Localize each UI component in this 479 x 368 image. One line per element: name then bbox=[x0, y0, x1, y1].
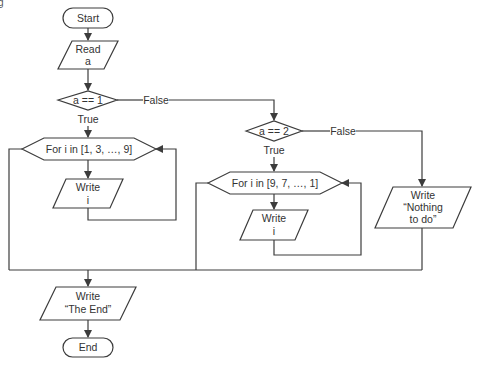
decision-a-eq-1: a == 1 bbox=[58, 91, 117, 110]
loop-1-label: For i in [1, 3, …, 9] bbox=[46, 143, 132, 155]
write-i-2-line1: Write bbox=[262, 212, 286, 224]
write-i-2-line2: i bbox=[273, 225, 275, 237]
write-i-1-node: Write i bbox=[53, 179, 123, 208]
write-nothing-line2: “Nothing bbox=[403, 201, 443, 213]
write-i-1-line2: i bbox=[87, 194, 89, 206]
write-end-line1: Write bbox=[76, 290, 100, 302]
write-i-1-line1: Write bbox=[76, 181, 100, 193]
loop-1-node: For i in [1, 3, …, 9] bbox=[22, 138, 156, 160]
end-node: End bbox=[63, 338, 113, 357]
write-nothing-node: Write “Nothing to do” bbox=[375, 187, 471, 228]
write-the-end-node: Write “The End” bbox=[40, 287, 136, 320]
read-a-node: Read a bbox=[58, 41, 118, 69]
flowchart: g True Fal bbox=[0, 0, 479, 368]
decision-a-eq-2: a == 2 bbox=[246, 121, 302, 141]
edge-loop2-exit bbox=[196, 183, 208, 270]
start-label: Start bbox=[77, 12, 99, 24]
read-a-line1: Read bbox=[75, 43, 100, 55]
write-nothing-line3: to do” bbox=[410, 213, 437, 225]
cond1-false-label: False bbox=[143, 94, 169, 106]
cropped-text-fragment: g bbox=[0, 0, 4, 8]
decision-2-label: a == 2 bbox=[259, 125, 289, 137]
start-node: Start bbox=[63, 8, 113, 28]
loop-2-label: For i in [9, 7, …, 1] bbox=[232, 177, 318, 189]
end-label: End bbox=[79, 341, 98, 353]
cond2-true-label: True bbox=[263, 144, 284, 156]
write-nothing-line1: Write bbox=[411, 189, 435, 201]
cond1-true-label: True bbox=[77, 113, 98, 125]
edge-cond1-false-b bbox=[169, 100, 274, 120]
edge-loop1-exit bbox=[9, 149, 22, 270]
loop-2-node: For i in [9, 7, …, 1] bbox=[208, 172, 342, 194]
edge-cond2-false-b bbox=[356, 131, 422, 186]
decision-1-label: a == 1 bbox=[73, 94, 103, 106]
read-a-line2: a bbox=[85, 55, 91, 67]
write-i-2-node: Write i bbox=[240, 210, 308, 240]
write-end-line2: “The End” bbox=[65, 303, 112, 315]
cond2-false-label: False bbox=[330, 125, 356, 137]
